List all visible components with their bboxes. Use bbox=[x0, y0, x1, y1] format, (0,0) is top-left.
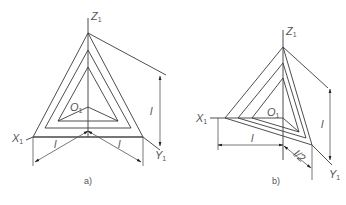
dim-diagonal-label: l/2 bbox=[291, 147, 308, 164]
dim-left-arrow bbox=[35, 131, 88, 162]
panel-a-caption: a) bbox=[84, 176, 92, 186]
origin-to-right bbox=[88, 107, 118, 121]
x-axis-extension bbox=[26, 137, 33, 140]
middle-triangle bbox=[238, 63, 306, 138]
z-axis-label: Z1 bbox=[285, 25, 297, 38]
diagram-canvas: Z1 O1 X1 Y1 l l l a) Z1 O1 bbox=[0, 0, 346, 205]
y-axis-label: Y1 bbox=[155, 149, 166, 162]
panel-b: Z1 O1 X1 Y1 l l l/2 b) bbox=[195, 25, 340, 186]
y-axis-extension bbox=[312, 145, 332, 165]
panel-a: Z1 O1 X1 Y1 l l l a) bbox=[11, 10, 166, 186]
x-axis-label: X1 bbox=[11, 132, 23, 145]
dim-vertical-label: l bbox=[321, 118, 324, 130]
y-axis-label: Y1 bbox=[329, 168, 340, 181]
y-axis-top-line bbox=[88, 33, 166, 75]
dim-left-label: l bbox=[54, 138, 57, 150]
origin-label: O1 bbox=[267, 106, 280, 119]
dim-right-label: l bbox=[118, 138, 121, 150]
dim-horizontal-label: l bbox=[251, 132, 254, 144]
origin-label: O1 bbox=[70, 101, 83, 114]
z-axis-label: Z1 bbox=[90, 10, 102, 23]
dim-vertical-label: l bbox=[150, 105, 153, 117]
y-axis-top-line bbox=[283, 47, 328, 88]
dim-right-arrow bbox=[88, 131, 141, 162]
x-axis-label: X1 bbox=[195, 112, 207, 125]
panel-b-caption: b) bbox=[272, 176, 280, 186]
